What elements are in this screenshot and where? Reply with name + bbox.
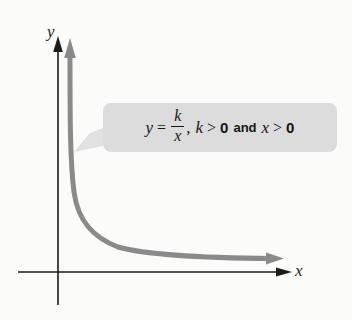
condition-two-operator: > [270, 119, 285, 137]
equation-lhs: y [145, 118, 155, 138]
curve-right-arrowhead [266, 253, 284, 265]
reciprocal-curve [70, 50, 272, 259]
condition-two-variable: x [261, 118, 271, 138]
y-axis-label: y [47, 23, 55, 40]
x-axis-label: x [295, 262, 303, 279]
equals-sign: = [154, 119, 169, 137]
callout-tail [74, 128, 103, 152]
condition-two-value: 0 [285, 119, 295, 136]
equation-callout-box: y = k x , k > 0 and x > 0 [103, 103, 337, 152]
equation-comma: , [186, 118, 194, 138]
condition-one-value: 0 [219, 119, 229, 136]
x-axis-arrowhead [276, 267, 292, 276]
conjunction-and: and [229, 120, 260, 135]
equation-text: y = k x , k > 0 and x > 0 [103, 103, 337, 152]
fraction-denominator: x [171, 128, 184, 145]
condition-one-operator: > [204, 119, 219, 137]
fraction-k-over-x: k x [171, 108, 184, 145]
curve-top-arrowhead [64, 38, 76, 58]
condition-one-variable: k [194, 118, 204, 138]
fraction-numerator: k [171, 108, 184, 125]
figure-container: y x y = k x , k > 0 and x > 0 [0, 0, 352, 320]
